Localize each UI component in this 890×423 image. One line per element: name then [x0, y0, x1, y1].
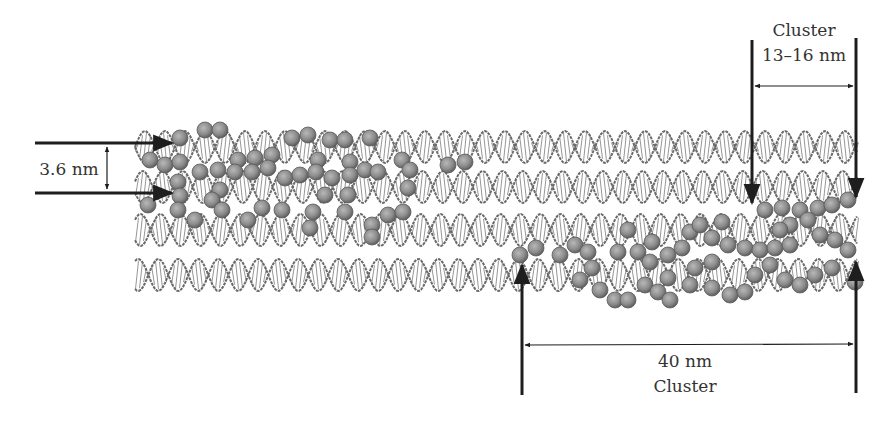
- nanoparticle: [827, 232, 843, 248]
- nanoparticle: [142, 152, 158, 168]
- nanoparticle: [620, 292, 636, 308]
- nanoparticle: [342, 167, 358, 183]
- nanoparticle: [714, 214, 730, 230]
- nanoparticle: [747, 267, 763, 283]
- nanoparticle: [824, 260, 840, 276]
- nanoparticle: [620, 222, 636, 238]
- nanoparticle: [807, 267, 823, 283]
- nanoparticle: [772, 222, 788, 238]
- nanoparticle: [660, 247, 676, 263]
- figure-canvas: 3.6 nm Cluster 13–16 nm 40 nm Cluster: [0, 0, 890, 423]
- nanoparticle: [187, 212, 203, 228]
- large-cluster-label-line2: Cluster: [620, 376, 750, 396]
- nanoparticle: [737, 240, 753, 256]
- nanoparticle: [400, 180, 416, 196]
- nanoparticle: [737, 284, 753, 300]
- nanoparticle: [552, 247, 568, 263]
- nanoparticle: [370, 164, 386, 180]
- nanoparticle: [300, 127, 316, 143]
- nanoparticle: [457, 154, 473, 170]
- dna-helix-row-2: [135, 171, 859, 203]
- nanoparticle: [322, 132, 338, 148]
- nanoparticle: [277, 170, 293, 186]
- nanoparticle: [660, 270, 676, 286]
- nanoparticle: [340, 187, 356, 203]
- nanoparticle: [324, 170, 340, 186]
- nanoparticle: [274, 202, 290, 218]
- spacing-label: 3.6 nm: [36, 159, 102, 179]
- nanoparticle: [380, 207, 396, 223]
- nanoparticle: [395, 204, 411, 220]
- nanoparticle: [227, 164, 243, 180]
- nanoparticle: [757, 202, 773, 218]
- nanoparticle: [440, 157, 456, 173]
- nanoparticle: [610, 244, 626, 260]
- nanoparticle: [782, 237, 798, 253]
- nanoparticle: [642, 254, 658, 270]
- nanoparticle: [140, 197, 156, 213]
- nanoparticle: [212, 122, 228, 138]
- dimension-arrows: [35, 38, 856, 395]
- small-cluster-label-line2: 13–16 nm: [752, 45, 856, 65]
- nanoparticle-right-group: [512, 192, 863, 308]
- nanoparticle: [840, 192, 856, 208]
- nanoparticle: [812, 227, 828, 243]
- nanoparticle: [172, 130, 188, 146]
- nanoparticle: [800, 212, 816, 228]
- nanoparticle: [292, 167, 308, 183]
- nanoparticle: [170, 202, 186, 218]
- nanoparticle: [592, 282, 608, 298]
- nanoparticle: [704, 254, 720, 270]
- nanoparticle: [192, 164, 208, 180]
- nanoparticle: [244, 164, 260, 180]
- nanoparticle: [662, 292, 678, 308]
- large-cluster-label-line1: 40 nm: [620, 351, 750, 371]
- nanoparticle: [172, 188, 188, 204]
- nanoparticle: [172, 154, 188, 170]
- small-cluster-label-line1: Cluster: [752, 20, 856, 40]
- nanoparticle: [260, 160, 276, 176]
- nanoparticle: [402, 162, 418, 178]
- nanoparticle: [682, 277, 698, 293]
- nanoparticle: [254, 200, 270, 216]
- nanoparticle: [337, 132, 353, 148]
- nanoparticle: [284, 130, 300, 146]
- nanoparticle: [580, 244, 596, 260]
- nanoparticle: [752, 242, 768, 258]
- nanoparticle: [824, 197, 840, 213]
- nanoparticle: [247, 150, 263, 166]
- nanoparticle: [317, 187, 333, 203]
- nanoparticle: [840, 242, 856, 258]
- nanoparticle: [364, 229, 380, 245]
- nanoparticle: [792, 277, 808, 293]
- nanoparticle: [308, 164, 324, 180]
- nanoparticle: [674, 240, 690, 256]
- nanoparticle: [240, 212, 256, 228]
- nanoparticle: [722, 287, 738, 303]
- nanoparticle: [528, 240, 544, 256]
- nanoparticle: [302, 220, 318, 236]
- nanoparticle: [774, 200, 790, 216]
- nanoparticle: [644, 234, 660, 250]
- nanoparticle: [362, 130, 378, 146]
- nanoparticle: [584, 260, 600, 276]
- nanoparticle: [762, 257, 778, 273]
- nanoparticle: [720, 237, 736, 253]
- nanoparticle: [687, 260, 703, 276]
- nanoparticle: [692, 217, 708, 233]
- nanoparticle: [305, 204, 321, 220]
- nanoparticle: [767, 240, 783, 256]
- nanoparticle: [157, 157, 173, 173]
- nanoparticle: [512, 247, 528, 263]
- nanoparticle: [170, 174, 186, 190]
- nanoparticle: [197, 122, 213, 138]
- nanoparticle: [214, 202, 230, 218]
- nanoparticle: [572, 272, 588, 288]
- nanoparticle: [337, 204, 353, 220]
- large-cluster-dimension-line: [525, 344, 853, 345]
- nanoparticle: [777, 272, 793, 288]
- nanoparticle: [704, 230, 720, 246]
- nanoparticle: [704, 280, 720, 296]
- nanoparticle: [210, 162, 226, 178]
